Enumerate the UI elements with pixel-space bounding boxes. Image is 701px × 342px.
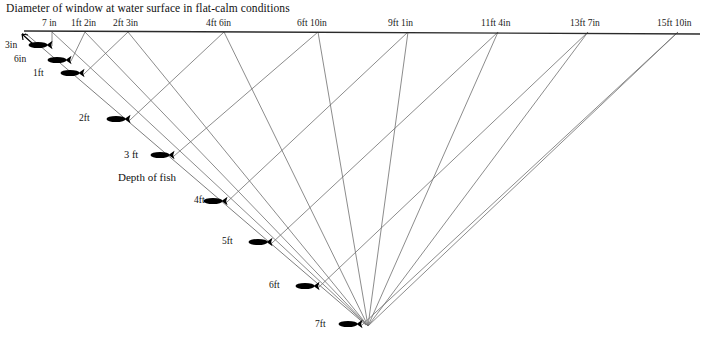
surface-diameter-label: 13ft 7in <box>570 19 600 29</box>
ray-line-down-2ft <box>224 32 368 326</box>
ray-line-up-6ft <box>319 32 588 287</box>
fish-icon <box>249 238 273 246</box>
ray-line-up-2ft <box>130 32 224 120</box>
ray-line-up-5ft <box>272 32 498 243</box>
surface-diameter-label: 7 in <box>42 19 57 29</box>
surface-diameter-label: 9ft 1in <box>388 19 413 29</box>
depth-label: 7ft <box>315 320 326 330</box>
fish-icon <box>339 320 363 328</box>
fish-icon <box>296 282 320 290</box>
depth-label: 1ft <box>33 69 44 79</box>
surface-diameter-label: 1ft 2in <box>71 19 96 29</box>
fish-icon <box>204 197 228 205</box>
fish-icon <box>48 56 72 64</box>
depth-axis-line-group <box>25 33 366 325</box>
depth-label: 6ft <box>269 281 280 291</box>
depth-axis-diagonal <box>25 33 366 325</box>
ray-line-down-7ft <box>368 32 678 326</box>
depth-label: 3in <box>5 41 17 51</box>
water-surface-line <box>24 31 700 34</box>
ray-line-up-7ft <box>362 32 678 325</box>
surface-diameter-label: 2ft 3in <box>113 19 138 29</box>
ray-line-down-4ft <box>368 32 408 326</box>
depth-label: 2ft <box>79 114 90 124</box>
ray-line-down-3in <box>52 32 368 326</box>
diagram-vector-layer <box>0 0 701 342</box>
ray-line-down-6ft <box>368 32 588 326</box>
depth-label: 4ft <box>194 196 205 206</box>
fish-markers-group <box>29 41 363 328</box>
ray-line-up-4ft <box>227 32 408 202</box>
diagram-canvas: Diameter of window at water surface in f… <box>0 0 701 342</box>
surface-diameter-label: 4ft 6in <box>206 19 231 29</box>
depth-axis-caption: Depth of fish <box>118 172 176 183</box>
depth-label: 5ft <box>222 237 233 247</box>
fish-icon <box>29 41 53 49</box>
fish-icon <box>107 115 131 123</box>
fish-icon <box>61 69 85 77</box>
surface-diameter-label: 15ft 10in <box>657 19 692 29</box>
surface-diameter-label: 11ft 4in <box>481 19 510 29</box>
depth-label: 6in <box>14 55 26 65</box>
water-surface-line-group <box>24 31 700 34</box>
depth-label: 3 ft <box>124 150 138 161</box>
page-title: Diameter of window at water surface in f… <box>6 3 290 15</box>
surface-diameter-label: 6ft 10in <box>297 19 327 29</box>
ray-line-up-3ft <box>174 32 318 156</box>
